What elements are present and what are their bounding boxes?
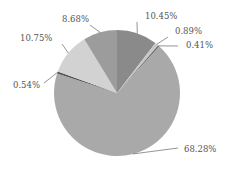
slice-label: 68.28% [184, 144, 216, 154]
slice-label: 0.54% [13, 80, 40, 90]
leader-line [90, 25, 100, 32]
slice-label: 0.89% [175, 26, 202, 36]
pie-chart: 10.45%0.89%0.41%68.28%0.54%10.75%8.68% [0, 0, 228, 175]
leader-line [62, 44, 68, 53]
pie-chart-svg: 10.45%0.89%0.41%68.28%0.54%10.75%8.68% [0, 0, 228, 175]
slice-label: 8.68% [62, 14, 89, 24]
slice-label: 0.41% [186, 40, 213, 50]
slice-label: 10.75% [20, 33, 52, 43]
slice-label: 10.45% [145, 11, 177, 21]
leader-line [157, 37, 168, 44]
